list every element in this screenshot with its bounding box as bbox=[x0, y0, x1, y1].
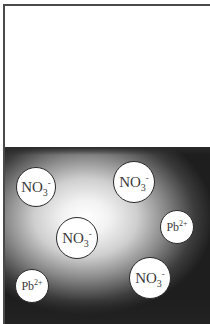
nitrate-ion: NO3- bbox=[129, 257, 171, 299]
ion-label: NO3- bbox=[21, 180, 51, 195]
lead-ion: Pb2+ bbox=[15, 269, 49, 303]
nitrate-ion: NO3- bbox=[56, 217, 98, 259]
container-left-wall bbox=[3, 4, 5, 324]
ion-label: NO3- bbox=[135, 271, 165, 286]
diagram-canvas: NO3- NO3- Pb2+ NO3- Pb2+ NO3- bbox=[0, 0, 210, 324]
air-region bbox=[5, 6, 210, 147]
ion-label: NO3- bbox=[119, 175, 149, 190]
nitrate-ion: NO3- bbox=[113, 161, 155, 203]
ion-label: Pb2+ bbox=[166, 221, 187, 233]
ion-label: NO3- bbox=[62, 231, 92, 246]
nitrate-ion: NO3- bbox=[16, 167, 56, 207]
lead-ion: Pb2+ bbox=[160, 210, 194, 244]
ion-label: Pb2+ bbox=[21, 280, 42, 292]
container-top-edge bbox=[3, 4, 210, 6]
